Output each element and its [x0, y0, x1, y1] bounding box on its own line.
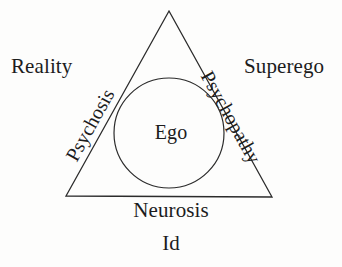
label-id: Id: [0, 233, 342, 254]
label-reality: Reality: [11, 56, 72, 77]
label-neurosis: Neurosis: [0, 200, 342, 221]
label-ego: Ego: [0, 122, 342, 142]
label-superego: Superego: [244, 56, 324, 77]
diagram-canvas: Reality Superego Psychosis Psychopathy E…: [0, 0, 342, 267]
